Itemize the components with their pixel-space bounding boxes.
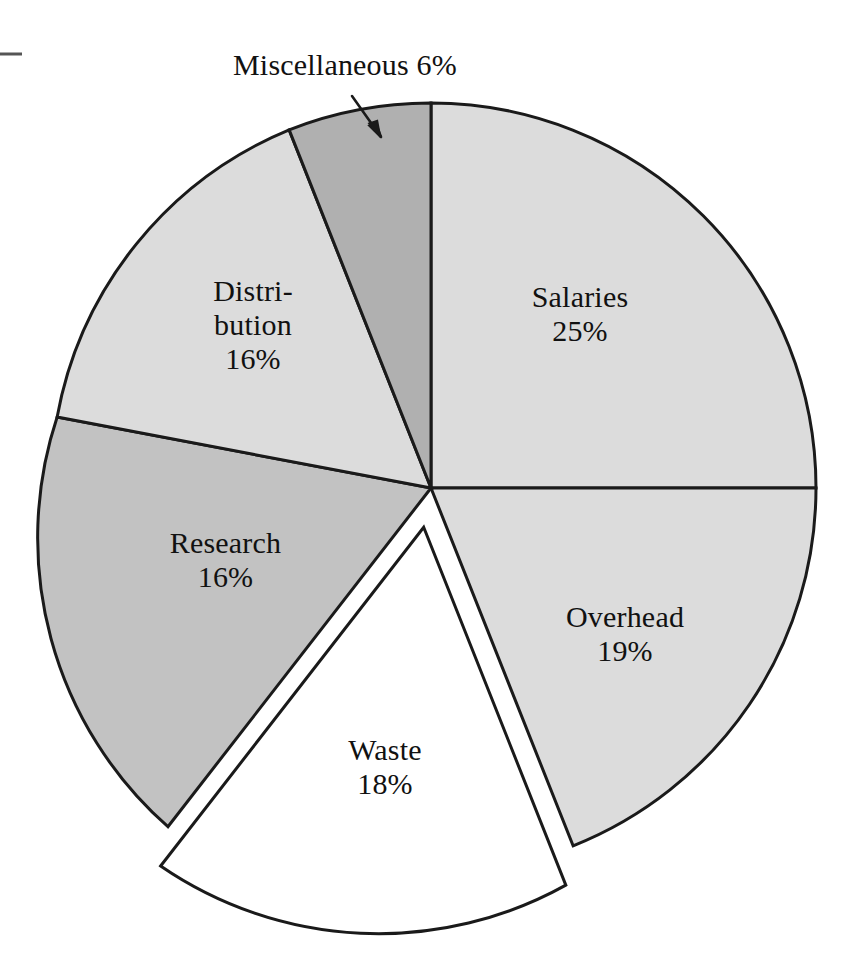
pie-label-miscellaneous: Miscellaneous 6% — [230, 48, 460, 82]
pie-label-miscellaneous-value: 6% — [417, 48, 457, 81]
pie-chart-svg — [0, 0, 854, 971]
pie-slice-salaries[interactable] — [431, 103, 816, 488]
pie-label-miscellaneous-name: Miscellaneous — [233, 48, 409, 81]
pie-chart-page: Salaries 25% Overhead 19% Waste 18% Rese… — [0, 0, 854, 971]
